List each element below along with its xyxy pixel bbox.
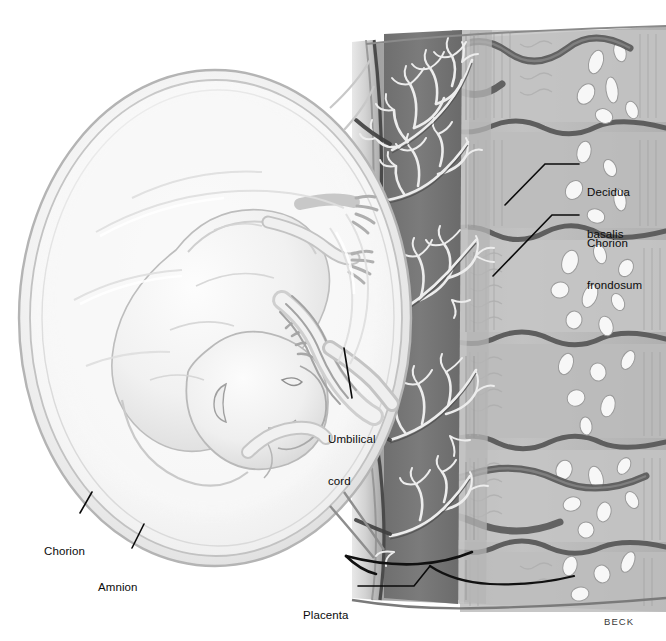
label-decidua-basalis-line1: Decidua bbox=[587, 185, 630, 199]
label-umbilical-cord: Umbilical cord bbox=[328, 404, 376, 502]
label-placenta-line1: Placenta bbox=[303, 608, 349, 622]
label-chorion-frondosum-line1: Chorion bbox=[587, 236, 642, 250]
placenta-anatomy-illustration bbox=[0, 0, 666, 641]
label-umbilical-cord-line2: cord bbox=[328, 474, 376, 488]
artist-signature: BECK bbox=[604, 616, 634, 627]
illustration-canvas: Decidua basalis Chorion frondosum Umbili… bbox=[0, 0, 666, 641]
label-umbilical-cord-line1: Umbilical bbox=[328, 432, 376, 446]
label-chorion-frondosum: Chorion frondosum bbox=[587, 208, 642, 306]
label-placenta: Placenta bbox=[303, 580, 349, 636]
label-amnion: Amnion bbox=[98, 552, 138, 608]
label-chorion-frondosum-line2: frondosum bbox=[587, 278, 642, 292]
label-chorion-line1: Chorion bbox=[44, 544, 85, 558]
label-chorion: Chorion bbox=[44, 516, 85, 572]
label-amnion-line1: Amnion bbox=[98, 580, 138, 594]
